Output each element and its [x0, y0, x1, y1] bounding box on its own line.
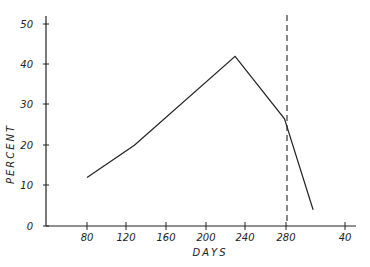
- x-tick-label: 80: [81, 232, 94, 243]
- y-tick-label: 40: [20, 59, 33, 70]
- x-axis-title: DAYS: [193, 247, 228, 258]
- x-tick-label: 160: [156, 232, 175, 243]
- y-tick-label: 30: [20, 99, 33, 110]
- y-axis-title: PERCENT: [5, 124, 16, 184]
- y-tick-label: 20: [20, 140, 33, 151]
- x-tick-label: 120: [116, 232, 135, 243]
- x-tick-label: 40: [339, 232, 352, 243]
- x-tick-label: 240: [235, 232, 254, 243]
- x-ticks: 8012016020024028040: [81, 222, 352, 243]
- y-tick-label: 0: [27, 221, 33, 232]
- y-tick-label: 50: [20, 19, 33, 30]
- x-tick-label: 200: [196, 232, 215, 243]
- line-chart: 01020304050 8012016020024028040 DAYS PER…: [0, 0, 370, 267]
- y-tick-label: 10: [20, 180, 33, 191]
- data-series-line: [87, 56, 313, 210]
- y-ticks: 01020304050: [20, 19, 49, 232]
- x-tick-label: 280: [276, 232, 295, 243]
